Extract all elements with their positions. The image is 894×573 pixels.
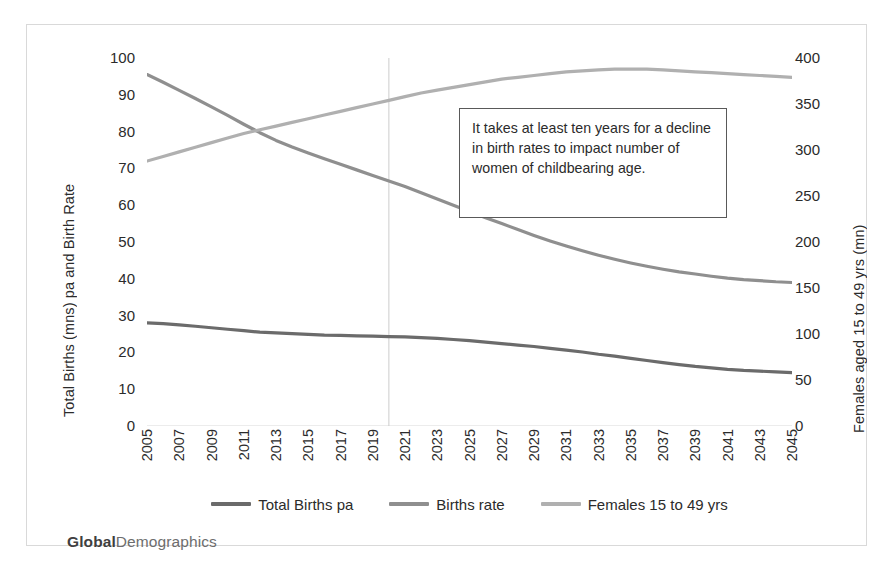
left-tick-60: 60 xyxy=(95,197,135,212)
right-axis-title: Females aged 15 to 49 yrs (mn) xyxy=(851,143,867,433)
x-tick-2025: 2025 xyxy=(462,429,478,461)
x-tick-2035: 2035 xyxy=(623,429,639,461)
x-tick-2017: 2017 xyxy=(333,429,349,461)
right-tick-350: 350 xyxy=(795,96,839,111)
left-tick-70: 70 xyxy=(95,160,135,175)
chart-frame: Total Births (mns) pa and Birth Rate Fem… xyxy=(26,24,867,546)
x-tick-2043: 2043 xyxy=(752,429,768,461)
left-tick-90: 90 xyxy=(95,87,135,102)
annotation-textbox: It takes at least ten years for a declin… xyxy=(459,108,727,218)
legend-swatch-icon xyxy=(541,502,581,506)
x-tick-2045: 2045 xyxy=(784,429,800,461)
legend-item-2[interactable]: Females 15 to 49 yrs xyxy=(541,496,728,513)
chart-legend: Total Births paBirths rateFemales 15 to … xyxy=(147,491,792,517)
legend-swatch-icon xyxy=(211,502,251,506)
right-axis-tick-labels: 050100150200250300350400 xyxy=(795,25,843,573)
left-tick-10: 10 xyxy=(95,381,135,396)
right-tick-200: 200 xyxy=(795,234,839,249)
x-tick-2021: 2021 xyxy=(397,429,413,461)
right-tick-300: 300 xyxy=(795,142,839,157)
legend-swatch-icon xyxy=(389,502,429,506)
x-tick-2011: 2011 xyxy=(236,429,252,460)
x-tick-2023: 2023 xyxy=(429,429,445,461)
brand-regular: Demographics xyxy=(116,533,217,550)
x-tick-2009: 2009 xyxy=(204,429,220,461)
x-axis-tick-labels: 2005200720092011201320152017201920212023… xyxy=(147,429,792,491)
left-tick-40: 40 xyxy=(95,271,135,286)
series-line-0 xyxy=(147,323,792,373)
legend-item-1[interactable]: Births rate xyxy=(389,496,504,513)
legend-label: Births rate xyxy=(436,496,504,513)
right-tick-0: 0 xyxy=(795,418,839,433)
legend-label: Total Births pa xyxy=(258,496,353,513)
left-tick-100: 100 xyxy=(95,50,135,65)
x-tick-2005: 2005 xyxy=(139,429,155,461)
x-tick-2013: 2013 xyxy=(268,429,284,461)
right-tick-250: 250 xyxy=(795,188,839,203)
left-axis-title: Total Births (mns) pa and Birth Rate xyxy=(61,117,77,417)
x-tick-2041: 2041 xyxy=(720,429,736,461)
right-tick-150: 150 xyxy=(795,280,839,295)
x-tick-2027: 2027 xyxy=(494,429,510,461)
x-tick-2019: 2019 xyxy=(365,429,381,461)
right-tick-50: 50 xyxy=(795,372,839,387)
chart-screenshot: Total Births (mns) pa and Birth Rate Fem… xyxy=(0,0,894,573)
annotation-text: It takes at least ten years for a declin… xyxy=(472,120,711,176)
right-tick-400: 400 xyxy=(795,50,839,65)
right-tick-100: 100 xyxy=(795,326,839,341)
x-tick-2037: 2037 xyxy=(655,429,671,461)
left-axis-tick-labels: 0102030405060708090100 xyxy=(91,25,135,573)
brand-bold: Global xyxy=(67,533,116,550)
x-tick-2031: 2031 xyxy=(558,429,574,461)
legend-label: Females 15 to 49 yrs xyxy=(588,496,728,513)
x-tick-2039: 2039 xyxy=(687,429,703,461)
x-tick-2029: 2029 xyxy=(526,429,542,461)
brand-watermark: GlobalDemographics xyxy=(67,533,217,551)
x-tick-2007: 2007 xyxy=(171,429,187,461)
left-tick-50: 50 xyxy=(95,234,135,249)
left-tick-30: 30 xyxy=(95,308,135,323)
left-tick-80: 80 xyxy=(95,124,135,139)
x-tick-2033: 2033 xyxy=(591,429,607,461)
x-tick-2015: 2015 xyxy=(300,429,316,461)
left-tick-20: 20 xyxy=(95,344,135,359)
left-tick-0: 0 xyxy=(95,418,135,433)
legend-item-0[interactable]: Total Births pa xyxy=(211,496,353,513)
